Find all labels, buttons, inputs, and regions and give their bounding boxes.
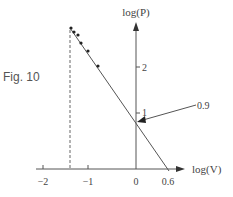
- x-tick-label: −2: [38, 176, 49, 187]
- log-log-chart: −2 −1 0 0.6 2 1 log(V) log(P) 0.9: [0, 0, 233, 197]
- x-axis-label: log(V): [192, 163, 222, 176]
- x-tick-label: 0.6: [162, 176, 175, 187]
- y-tick-label: 1: [142, 107, 147, 118]
- y-axis-label: log(P): [122, 6, 150, 19]
- data-point: [72, 30, 75, 33]
- x-axis-arrow-icon: [176, 166, 185, 172]
- x-tick-label: −1: [83, 176, 94, 187]
- data-point: [96, 64, 99, 67]
- x-tick-label: 0: [134, 176, 139, 187]
- fit-line: [70, 28, 169, 171]
- scatter-points: [69, 26, 99, 67]
- y-axis-arrow-icon: [133, 22, 139, 31]
- data-point: [86, 49, 89, 52]
- data-point: [69, 26, 72, 29]
- data-point: [76, 33, 79, 36]
- annotation-label: 0.9: [197, 100, 210, 111]
- y-tick-label: 2: [142, 62, 147, 73]
- annotation-arrow: [143, 105, 196, 120]
- data-point: [79, 41, 82, 44]
